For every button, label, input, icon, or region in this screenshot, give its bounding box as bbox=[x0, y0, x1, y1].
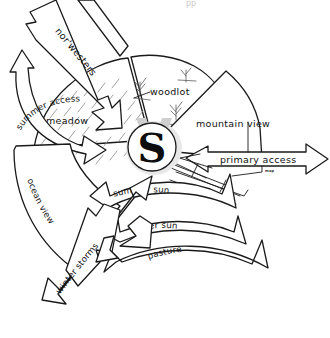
mountain-view-label-line1: mountain view bbox=[196, 118, 270, 129]
arrow-summer-sun: summer sun bbox=[90, 174, 236, 208]
norwesters-secondary-band bbox=[78, 0, 128, 56]
map-annotation: map bbox=[232, 166, 275, 176]
cropped-header-text: pp bbox=[186, 0, 196, 8]
map-leader-line bbox=[232, 166, 262, 176]
primary-access-label: primary access bbox=[220, 154, 296, 165]
arrow-winter-sun: winter sun bbox=[100, 216, 246, 244]
sector-analysis-diagram: pp meadow bbox=[0, 0, 330, 338]
pasture-label: pasture bbox=[146, 244, 182, 261]
woodlot-label: woodlot bbox=[150, 86, 190, 97]
meadow-label: meadow bbox=[46, 115, 88, 126]
center-s-letter: S bbox=[138, 124, 167, 171]
map-label: map bbox=[265, 169, 275, 173]
diagram-canvas: pp meadow bbox=[0, 0, 330, 338]
